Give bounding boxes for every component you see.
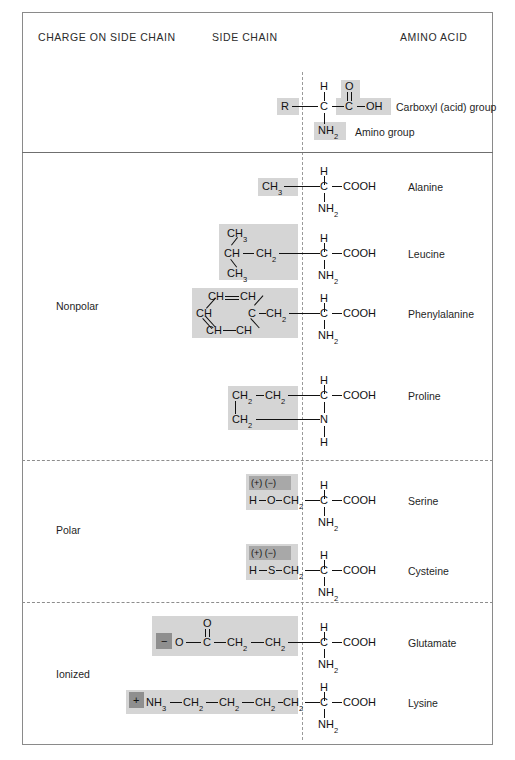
bond-alpha-to-carboxyl xyxy=(332,106,344,107)
glutamate-bond-o-c xyxy=(186,642,201,643)
cysteine-backbone-h-label: H xyxy=(320,550,328,561)
polar-ionized-separator xyxy=(22,602,493,603)
glutamate-backbone-h-label: H xyxy=(320,622,328,633)
glutamate-o-single-label: O xyxy=(175,637,184,648)
cysteine-charge-badge-label: (+) (−) xyxy=(251,548,276,559)
group-label-nonpolar: Nonpolar xyxy=(56,300,99,312)
generic-carbonyl-oxygen-label: O xyxy=(345,81,354,92)
bond-alpha-to-amino xyxy=(324,113,325,124)
proline-bond-ch2a-ch2b xyxy=(256,395,264,396)
amino-acid-name-serine: Serine xyxy=(408,495,438,507)
lysine-cooh-label: COOH xyxy=(343,697,376,708)
alanine-amino-label: NH2 xyxy=(318,203,338,214)
proline-n-hydrogen-label: H xyxy=(320,437,328,448)
phe-bond-bottom xyxy=(223,330,236,331)
amino-acid-name-alanine: Alanine xyxy=(408,181,443,193)
serine-oxygen-label: O xyxy=(267,495,276,506)
leucine-ch2-label: CH2 xyxy=(256,248,276,259)
glutamate-cooh-label: COOH xyxy=(343,637,376,648)
amino-group-note: Amino group xyxy=(355,126,415,138)
proline-cooh-label: COOH xyxy=(343,390,376,401)
lysine-ch2-d-label: CH2 xyxy=(283,697,303,708)
proline-bond-ch2b-alpha xyxy=(288,395,320,396)
phe-ch2-label: CH2 xyxy=(266,308,286,319)
serine-h-label: H xyxy=(249,495,257,506)
cysteine-sulfur-label: S xyxy=(268,565,275,576)
lysine-plus-label: + xyxy=(133,695,139,706)
proline-nitrogen-label: N xyxy=(320,414,328,425)
proline-bond-alpha-n xyxy=(324,402,325,413)
proline-alpha-carbon: C xyxy=(320,390,328,401)
cysteine-amino-label: NH2 xyxy=(318,587,338,598)
serine-alpha-carbon: C xyxy=(320,495,328,506)
cysteine-ch2-label: CH2 xyxy=(283,565,303,576)
header-side-chain: SIDE CHAIN xyxy=(212,31,278,43)
leucine-cooh-label: COOH xyxy=(343,248,376,259)
cysteine-alpha-carbon: C xyxy=(320,565,328,576)
glutamate-bond-alpha-cooh xyxy=(332,642,342,643)
glutamate-bond-alpha-n xyxy=(324,649,325,658)
amino-acid-name-glutamate: Glutamate xyxy=(408,637,456,649)
amino-acid-name-leucine: Leucine xyxy=(408,248,445,260)
cysteine-bond-s-ch2 xyxy=(276,570,282,571)
glutamate-ch2-a-label: CH2 xyxy=(227,637,247,648)
alpha-carbon-divider xyxy=(302,72,303,740)
header-amino-acid: AMINO ACID xyxy=(400,31,467,43)
generic-carboxyl-carbon-label: C xyxy=(345,101,353,112)
lysine-bond-side-to-alpha xyxy=(305,702,320,703)
proline-bond-alpha-cooh xyxy=(332,395,342,396)
generic-alpha-carbon-label: C xyxy=(320,101,328,112)
proline-ch2-b-label: CH2 xyxy=(265,390,285,401)
lysine-alpha-carbon: C xyxy=(320,697,328,708)
lysine-backbone-h-label: H xyxy=(320,682,328,693)
phe-ring-left: CH xyxy=(196,308,212,319)
amino-acid-name-lysine: Lysine xyxy=(408,697,438,709)
serine-charge-badge-label: (+) (−) xyxy=(251,478,276,489)
serine-ch2-label: CH2 xyxy=(283,495,303,506)
cysteine-cooh-label: COOH xyxy=(343,565,376,576)
lysine-bond-ch2b-ch2c xyxy=(242,702,254,703)
phe-ring-bottom-right: CH xyxy=(236,325,252,336)
amino-acid-name-proline: Proline xyxy=(408,390,441,402)
phe-ring-top-left: CH xyxy=(208,291,224,302)
leucine-amino-label: NH2 xyxy=(318,270,338,281)
nonpolar-polar-separator xyxy=(22,460,493,461)
proline-h-label: H xyxy=(320,375,328,386)
serine-bond-side-to-alpha xyxy=(305,500,320,501)
leucine-ch3-bottom-label: CH3 xyxy=(227,268,247,279)
leucine-bond-ch-ch2 xyxy=(243,253,254,254)
lysine-bond-alpha-cooh xyxy=(332,702,342,703)
amino-acid-name-phenylalanine: Phenylalanine xyxy=(408,308,474,320)
phe-bond-side-to-alpha xyxy=(289,313,320,314)
phe-bond-alpha-n xyxy=(324,320,325,329)
leucine-bond-alpha-cooh xyxy=(332,253,342,254)
glutamate-bond-c-ch2a xyxy=(214,642,226,643)
phe-ring-bottom-left: CH xyxy=(206,325,222,336)
group-label-ionized: Ionized xyxy=(56,668,90,680)
phe-bond-ring-ch2 xyxy=(259,313,266,314)
generic-h-label: H xyxy=(320,81,328,92)
glutamate-alpha-carbon: C xyxy=(320,637,328,648)
serine-backbone-h-label: H xyxy=(320,480,328,491)
bond-carboxyl-to-oh xyxy=(357,106,365,107)
generic-r-label: R xyxy=(281,101,289,112)
amino-acid-structure-chart: CHARGE ON SIDE CHAIN SIDE CHAIN AMINO AC… xyxy=(0,0,515,760)
serine-bond-alpha-n xyxy=(324,507,325,516)
glutamate-bond-side-to-alpha xyxy=(288,642,320,643)
lysine-ch2-c-label: CH2 xyxy=(255,697,275,708)
phe-h-label: H xyxy=(320,293,328,304)
leucine-bond-side-to-alpha xyxy=(279,253,320,254)
header-separator xyxy=(22,152,493,153)
leucine-ch3-top-label: CH3 xyxy=(227,228,247,239)
lysine-amino-label: NH2 xyxy=(318,719,338,730)
bond-r-to-alpha xyxy=(292,106,318,107)
phe-cooh-label: COOH xyxy=(343,308,376,319)
proline-ch2-a-label: CH2 xyxy=(232,390,252,401)
serine-bond-alpha-cooh xyxy=(332,500,342,501)
lysine-ch2-a-label: CH2 xyxy=(183,697,203,708)
serine-amino-label: NH2 xyxy=(318,517,338,528)
cysteine-bond-h-s xyxy=(259,570,267,571)
phe-alpha-carbon: C xyxy=(320,308,328,319)
glutamate-carbonyl-carbon-label: C xyxy=(203,637,211,648)
serine-bond-o-ch2 xyxy=(276,500,282,501)
